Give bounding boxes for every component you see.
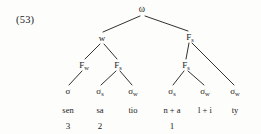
node-syl-1: σ bbox=[66, 87, 71, 96]
tree-edge-fs-right-to-fs-2 bbox=[186, 43, 189, 59]
tree-edge-w-left-to-fs-1 bbox=[104, 44, 117, 59]
node-syl-3: σw bbox=[128, 87, 138, 96]
node-syl-5-subscript: w bbox=[205, 89, 210, 96]
tree-edge-fs-1-to-syl-3 bbox=[120, 71, 132, 85]
tree-edge-omega-to-w-left bbox=[103, 16, 140, 32]
stress-number-4: 1 bbox=[170, 122, 175, 131]
tree-edge-fs-2-to-syl-4 bbox=[173, 71, 184, 85]
node-syl-6: σw bbox=[230, 87, 240, 96]
node-syl-3-subscript: w bbox=[133, 89, 138, 96]
node-syl-4: σs bbox=[168, 87, 175, 96]
figure-container: (53) ω w Fs Fw Fs Fs σ σs σw σs σw σw se… bbox=[0, 0, 261, 134]
syllable-text-2: sa bbox=[96, 106, 103, 115]
node-omega: ω bbox=[139, 5, 145, 15]
node-syl-4-subscript: s bbox=[173, 89, 176, 96]
node-syl-2: σs bbox=[96, 87, 103, 96]
syllable-text-1: sen bbox=[62, 106, 73, 115]
node-syl-2-subscript: s bbox=[101, 89, 104, 96]
tree-edge-w-left-to-fw-1 bbox=[85, 44, 100, 59]
node-syl-1-label: σ bbox=[66, 86, 71, 96]
node-fs-1-subscript: s bbox=[119, 63, 122, 70]
node-fs-right: Fs bbox=[186, 33, 194, 42]
node-syl-6-subscript: w bbox=[235, 89, 240, 96]
node-fw-1-subscript: w bbox=[84, 63, 89, 70]
tree-edge-fs-2-to-syl-5 bbox=[188, 71, 204, 85]
node-fs-2: Fs bbox=[182, 61, 190, 70]
tree-edge-fs-1-to-syl-2 bbox=[101, 71, 116, 85]
syllable-text-4: n + a bbox=[163, 106, 180, 115]
node-syl-5: σw bbox=[200, 87, 210, 96]
tree-edge-fw-1-to-syl-1 bbox=[69, 71, 82, 85]
node-fs-1: Fs bbox=[114, 61, 122, 70]
node-w-left: w bbox=[99, 34, 106, 43]
node-w-left-label: w bbox=[99, 33, 106, 43]
tree-edge-fs-right-to-syl-6 bbox=[192, 43, 234, 85]
syllable-text-6: ty bbox=[232, 106, 239, 115]
syllable-text-3: tio bbox=[129, 106, 138, 115]
tree-edge-omega-to-fs-right bbox=[145, 16, 188, 31]
stress-number-2: 2 bbox=[98, 122, 103, 131]
stress-number-1: 3 bbox=[66, 122, 71, 131]
node-fs-2-subscript: s bbox=[187, 63, 190, 70]
syllable-text-5: l + i bbox=[198, 106, 212, 115]
node-fs-right-subscript: s bbox=[191, 35, 194, 42]
node-fw-1: Fw bbox=[79, 61, 89, 70]
